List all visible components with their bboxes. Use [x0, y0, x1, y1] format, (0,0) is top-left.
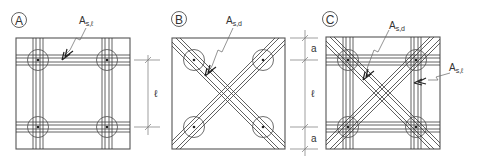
column-markers [28, 50, 118, 138]
rebar-leader-asd [205, 28, 233, 76]
column-markers [184, 50, 274, 138]
span-label: ℓ [311, 88, 315, 99]
rebar-label-asl: As,ℓ [449, 62, 464, 74]
slab-outline [172, 38, 285, 149]
rebar-leader-asl [414, 73, 450, 85]
edge-label-bottom: a [311, 133, 317, 144]
edge-label-top: a [311, 43, 317, 54]
reinforcement-diagram: A [0, 0, 483, 164]
orthogonal-rebar-bands [326, 37, 440, 149]
rebar-label-asd: As,d [389, 20, 405, 32]
panel-c: C [323, 12, 465, 150]
diagonal-rebar-band-2 [172, 38, 285, 149]
panel-a: A [12, 13, 161, 150]
rebar-label-asl: As,ℓ [79, 15, 94, 27]
span-label: ℓ [154, 88, 158, 99]
panel-a-label: A [15, 14, 23, 28]
diagonal-rebar-band-1 [172, 38, 285, 149]
rebar-label-asd: As,d [226, 15, 242, 27]
panel-c-label: C [326, 13, 335, 27]
column-markers [338, 50, 427, 138]
panel-b-label: B [175, 13, 183, 27]
panel-b: B As,d [172, 12, 319, 157]
